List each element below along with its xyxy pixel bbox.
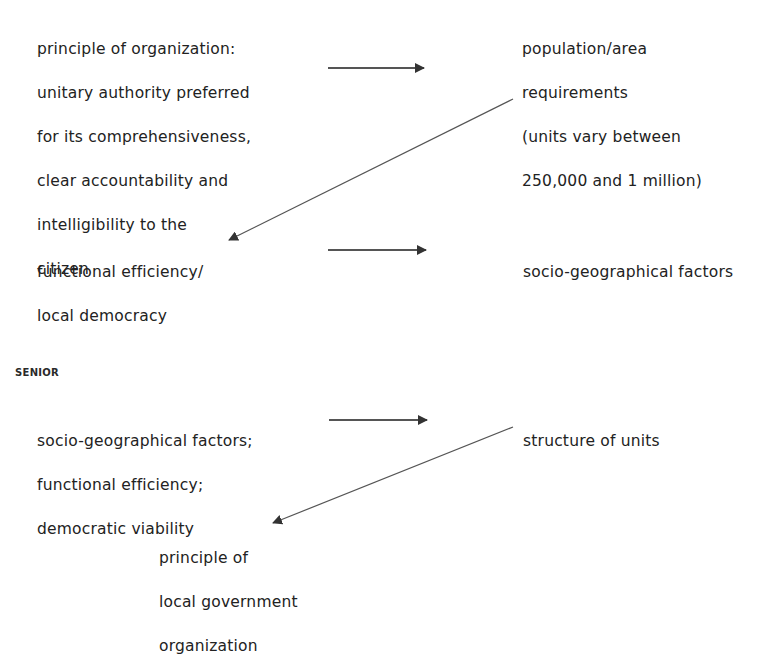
node-text-line: 250,000 and 1 million) — [522, 170, 702, 192]
node-text-line: principle of — [159, 547, 298, 569]
node-population-area-requirements: population/area requirements (units vary… — [522, 16, 702, 214]
arrow-population-to-functional — [229, 99, 513, 240]
node-text-line: population/area — [522, 38, 702, 60]
node-text-line: requirements — [522, 82, 702, 104]
node-socio-geographical-factors: socio-geographical factors — [523, 239, 733, 305]
node-text-line: local democracy — [37, 305, 203, 327]
node-functional-efficiency: functional efficiency/ local democracy — [37, 239, 203, 349]
node-text-line: socio-geographical factors — [523, 261, 733, 283]
node-text-line: unitary authority preferred — [37, 82, 251, 104]
node-text-line: socio-geographical factors; — [37, 430, 253, 452]
section-label-senior: SENIOR — [15, 367, 59, 378]
node-text-line: organization — [159, 635, 298, 657]
node-text-line: structure of units — [523, 430, 660, 452]
node-text-line: local government — [159, 591, 298, 613]
node-text-line: functional efficiency; — [37, 474, 253, 496]
node-text-line: principle of organization: — [37, 38, 251, 60]
node-text-line: functional efficiency/ — [37, 261, 203, 283]
node-text-line: for its comprehensiveness, — [37, 126, 251, 148]
arrow-structure-to-principle — [273, 427, 513, 523]
node-text-line: clear accountability and — [37, 170, 251, 192]
node-text-line: intelligibility to the — [37, 214, 251, 236]
node-structure-of-units: structure of units — [523, 408, 660, 474]
node-principle-local-government: principle of local government organizati… — [159, 525, 298, 658]
node-text-line: (units vary between — [522, 126, 702, 148]
